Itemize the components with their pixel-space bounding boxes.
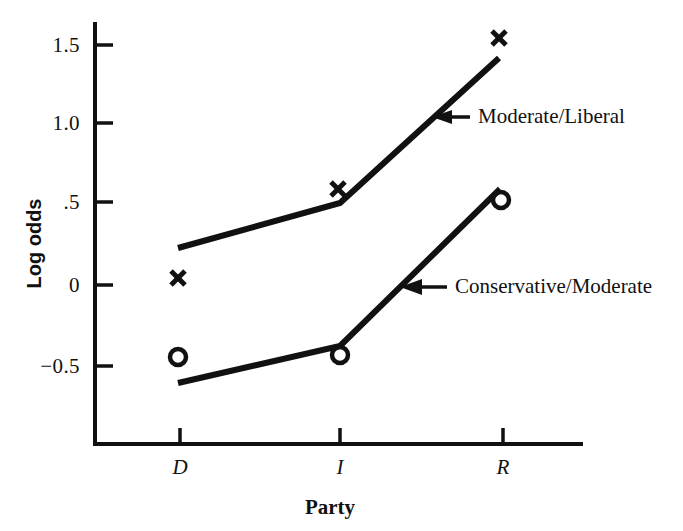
marker-o-d (170, 349, 186, 365)
chart-figure: 1.5 1.0 .5 0 −0.5 D I R Log odds Party M… (0, 0, 683, 531)
series-line-conservative-moderate (178, 189, 500, 383)
x-tick-label-r: R (473, 455, 533, 480)
x-tick-marks (180, 428, 503, 444)
y-tick-marks (95, 45, 113, 366)
marker-x-i (331, 182, 345, 196)
series-markers-moderate-liberal (171, 31, 506, 285)
annotation-label-moderate-liberal: Moderate/Liberal (478, 104, 625, 129)
y-tick-label-2: 1.0 (14, 111, 80, 136)
marker-o-r (493, 192, 509, 208)
marker-x-d (171, 271, 185, 285)
y-axis-title: Log odds (23, 184, 46, 304)
plot-canvas (0, 0, 683, 531)
marker-x-r (492, 31, 506, 45)
y-tick-label-5: −0.5 (8, 354, 80, 379)
y-tick-label-1: 1.5 (14, 33, 80, 58)
series-line-moderate-liberal (178, 58, 499, 248)
x-tick-label-i: I (310, 455, 370, 480)
marker-o-i (332, 347, 348, 363)
x-axis-title: Party (240, 495, 420, 520)
annotation-label-conservative-moderate: Conservative/Moderate (455, 274, 652, 299)
x-tick-label-d: D (150, 455, 210, 480)
